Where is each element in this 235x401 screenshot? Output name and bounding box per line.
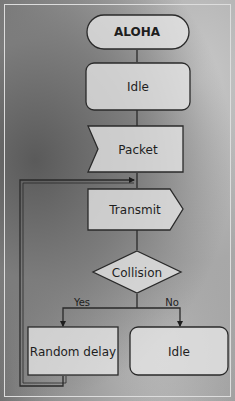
node-label-transmit: Transmit: [109, 203, 160, 217]
node-label-collision: Collision: [112, 266, 162, 280]
branch-label-yes: Yes: [74, 297, 90, 308]
edge-yes-to-delay: [63, 308, 137, 326]
branch-label-no: No: [165, 297, 179, 308]
node-label-random-delay: Random delay: [30, 345, 116, 359]
node-label-packet: Packet: [118, 143, 157, 157]
flowchart-canvas: ALOHA Idle Packet Transmit Collision Ran…: [0, 0, 235, 401]
node-label-idle-bottom: Idle: [168, 345, 190, 359]
edge-no-to-idle: [137, 308, 180, 326]
flowchart-graphics: [0, 0, 235, 401]
node-label-start: ALOHA: [114, 25, 160, 39]
node-label-idle-top: Idle: [127, 80, 149, 94]
